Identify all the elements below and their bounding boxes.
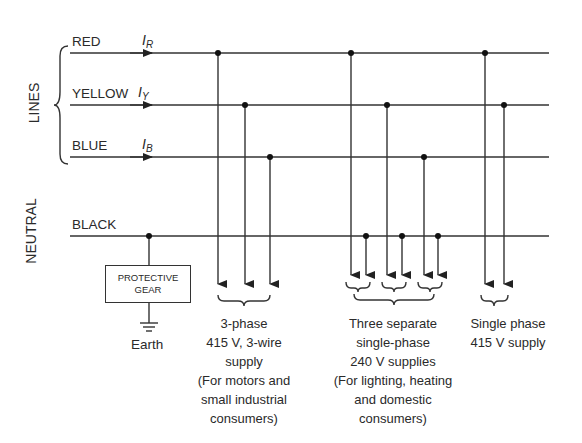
protective-gear-line1: PROTECTIVE xyxy=(118,272,179,284)
brace-sp-all xyxy=(354,294,434,305)
earth-label: Earth xyxy=(131,338,163,352)
protective-gear-line2: GEAR xyxy=(135,284,162,296)
caption-single-phase-240: Three separate single-phase 240 V suppli… xyxy=(326,314,460,428)
brace-sp2 xyxy=(382,282,406,292)
current-blue: IB xyxy=(142,137,153,154)
current-yellow: IY xyxy=(138,85,149,102)
brace-415 xyxy=(481,295,508,306)
lines-group-label: LINES xyxy=(27,83,41,123)
neutral-group-label: NEUTRAL xyxy=(24,198,38,263)
protective-gear-box: PROTECTIVE GEAR xyxy=(105,265,191,303)
caption-three-phase: 3-phase 415 V, 3-wire supply (For motors… xyxy=(184,314,304,428)
yellow-line-label: YELLOW xyxy=(72,87,128,101)
brace-sp3 xyxy=(418,282,442,292)
current-red: IR xyxy=(142,33,153,50)
blue-line-label: BLUE xyxy=(72,139,107,153)
red-line-label: RED xyxy=(72,35,101,49)
caption-single-phase-415: Single phase 415 V supply xyxy=(456,314,560,352)
brace-3phase xyxy=(218,295,270,306)
brace-sp1 xyxy=(346,282,370,292)
neutral-line-label: BLACK xyxy=(72,218,116,232)
lines-brace xyxy=(54,46,68,164)
